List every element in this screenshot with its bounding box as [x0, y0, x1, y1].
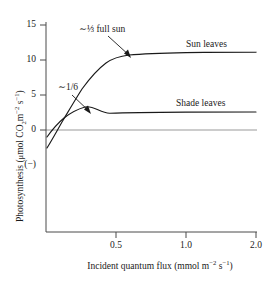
y-tick-label-10: 10	[14, 55, 36, 65]
x-tick-label-1-0: 1.0	[171, 241, 201, 251]
photosynthesis-light-response-chart: 15 10 5 0 (−) 0.5 1.0 2.0 Photosynthesis…	[0, 0, 279, 285]
annotation-label-one-sixth: ∼1/6	[58, 83, 78, 93]
series-label-shade-leaves: Shade leaves	[176, 99, 225, 109]
y-tick-label-15: 15	[14, 20, 36, 30]
annotation-arrowhead-one-third	[124, 50, 131, 59]
y-axis-title: Photosynthesis (μmol CO2m−2 s−1)	[16, 90, 26, 222]
x-tick-label-2-0: 2.0	[241, 241, 271, 251]
shade-leaves-curve	[47, 107, 256, 137]
annotation-label-one-third-full-sun: ∼⅓ full sun	[79, 25, 125, 35]
series-label-sun-leaves: Sun leaves	[186, 40, 227, 50]
x-axis-title: Incident quantum flux (mmol m−2 s−1)	[50, 262, 270, 272]
x-tick-label-0-5: 0.5	[101, 241, 131, 251]
chart-plot-area	[0, 0, 279, 285]
